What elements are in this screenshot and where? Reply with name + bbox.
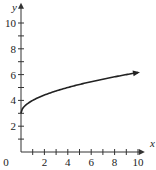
curve-arrow-icon xyxy=(133,70,140,76)
y-axis-label: y xyxy=(11,1,17,13)
axes xyxy=(18,3,145,155)
data-curve xyxy=(21,73,138,114)
y-tick-label: 4 xyxy=(11,94,17,106)
x-tick-label: 8 xyxy=(112,156,118,168)
x-axis-label: x xyxy=(149,137,155,149)
x-tick-label: 6 xyxy=(88,156,94,168)
tick-marks xyxy=(18,23,138,155)
y-tick-label: 6 xyxy=(11,69,17,81)
x-axis-arrow-icon xyxy=(139,149,145,155)
y-axis-arrow-icon xyxy=(18,3,24,9)
y-tick-label: 10 xyxy=(5,17,17,29)
x-tick-label: 2 xyxy=(42,156,48,168)
y-tick-label: 2 xyxy=(11,120,17,132)
y-tick-label: 8 xyxy=(11,43,17,55)
chart: 0246810246810 x y xyxy=(0,0,156,170)
x-tick-label: 0 xyxy=(3,156,9,168)
x-tick-label: 10 xyxy=(133,156,145,168)
x-tick-label: 4 xyxy=(65,156,71,168)
tick-labels: 0246810246810 xyxy=(3,17,144,168)
